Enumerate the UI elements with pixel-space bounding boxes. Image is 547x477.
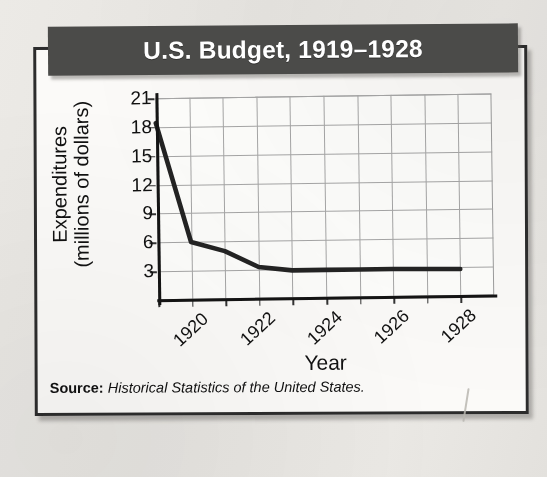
expenditures-line	[156, 119, 460, 273]
plot-inner: 36912151821 19201922192419261928	[155, 93, 494, 300]
y-tick-label: 3	[143, 260, 154, 282]
x-tick-label: 1928	[437, 305, 481, 348]
x-tick-label: 1922	[236, 308, 280, 351]
y-axis-title: Expenditures (millions of dollars)	[48, 84, 94, 284]
y-tick-label: 12	[131, 174, 152, 196]
y-tick-label: 6	[143, 231, 154, 253]
y-axis-title-line1: Expenditures	[48, 126, 71, 243]
plot-area: 36912151821 19201922192419261928	[156, 95, 493, 298]
y-tick-label: 9	[142, 203, 153, 225]
y-axis-title-line2: (millions of dollars)	[70, 84, 93, 284]
chart-container: Expenditures (millions of dollars) 36912…	[36, 48, 532, 419]
figure-card: Expenditures (millions of dollars) 36912…	[33, 45, 529, 416]
source-note: Source: Historical Statistics of the Uni…	[50, 379, 365, 396]
page-background: Expenditures (millions of dollars) 36912…	[0, 0, 547, 477]
expenditures-line-series	[155, 93, 494, 300]
x-tick-label: 1920	[169, 309, 213, 352]
source-text: Historical Statistics of the United Stat…	[108, 379, 365, 396]
y-tick-label: 21	[130, 87, 151, 109]
x-tick-label: 1924	[303, 307, 347, 350]
page-title: U.S. Budget, 1919–1928	[143, 35, 423, 65]
chart-title-banner: U.S. Budget, 1919–1928	[48, 23, 518, 75]
x-axis-title: Year	[158, 350, 494, 375]
source-label: Source:	[50, 380, 104, 396]
y-tick-label: 15	[131, 145, 152, 167]
y-tick-label: 18	[131, 116, 152, 138]
x-tick-label: 1926	[370, 306, 414, 349]
